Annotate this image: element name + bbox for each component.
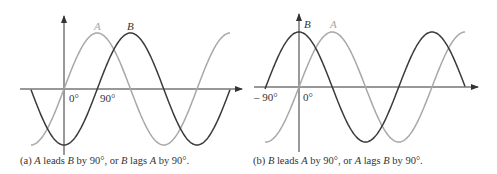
panel-a: A B 0° 90° — [20, 16, 242, 155]
caption-b-t1: leads — [274, 155, 301, 166]
tick-minus90-panel-b: – 90° — [253, 91, 278, 103]
caption-a-prefix: (a) — [20, 155, 34, 166]
caption-b-t3: lags — [361, 155, 383, 166]
caption-b-t2: by 90°, or — [308, 155, 355, 166]
caption-a: (a) A leads B by 90°, or B lags A by 90°… — [20, 155, 189, 166]
caption-a-t2: by 90°, or — [74, 155, 121, 166]
tick-0-panel-a: 0° — [69, 92, 79, 104]
caption-b-t4: by 90°. — [390, 155, 423, 166]
label-b-panel-a: B — [127, 20, 134, 32]
label-a-panel-a: A — [93, 20, 101, 32]
label-b-panel-b: B — [304, 18, 311, 30]
tick-90-panel-a: 90° — [100, 92, 115, 104]
caption-a-t4: by 90°. — [156, 155, 189, 166]
caption-a-t3: lags — [127, 155, 149, 166]
tick-0-panel-b: 0° — [303, 91, 313, 103]
phase-diagrams: A B 0° 90° B A – 90° 0° — [0, 0, 497, 174]
panel-b: B A – 90° 0° — [253, 14, 478, 152]
caption-b: (b) B leads A by 90°, or A lags B by 90°… — [253, 155, 423, 166]
label-a-panel-b: A — [329, 18, 337, 30]
caption-b-prefix: (b) — [253, 155, 268, 166]
caption-a-t1: leads — [41, 155, 68, 166]
